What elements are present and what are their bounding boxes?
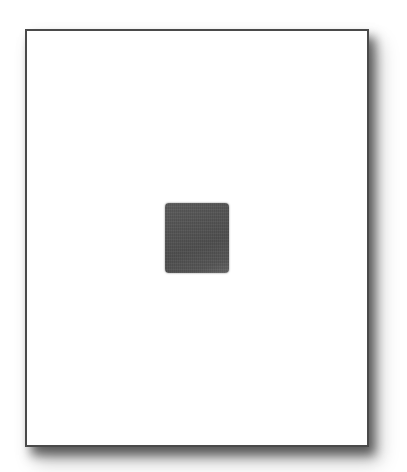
page-preview xyxy=(25,29,369,447)
image-placeholder-icon xyxy=(165,203,229,273)
